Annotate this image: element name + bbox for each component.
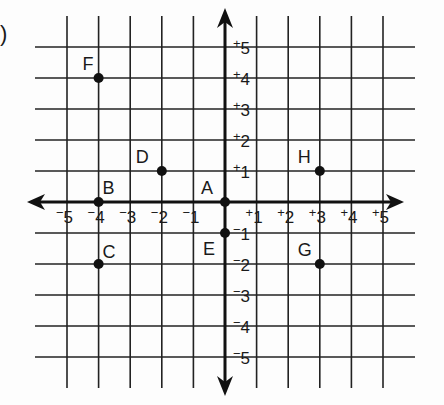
point-label: C: [103, 242, 116, 262]
x-tick-label: +5: [372, 205, 389, 227]
y-tick-label: −4: [233, 315, 250, 337]
x-tick-label: +4: [340, 205, 357, 227]
y-tick-label: −2: [233, 253, 250, 275]
coordinate-plane-figure: ) −5−4−3−2−1+1+2+3+4+5+5+4+3+2+1−1−2−3−4…: [0, 0, 444, 405]
x-tick-label: +2: [277, 205, 294, 227]
question-number-paren: ): [0, 23, 7, 45]
point-label: G: [298, 240, 312, 260]
point-marker: [157, 166, 167, 176]
point-marker: [94, 197, 104, 207]
y-tick-label: +5: [233, 36, 250, 58]
point-label: D: [136, 147, 149, 167]
y-tick-label: +4: [233, 67, 250, 89]
x-tick-label: −5: [56, 205, 73, 227]
point-marker: [315, 166, 325, 176]
point-label: F: [83, 54, 94, 74]
point-marker: [94, 73, 104, 83]
point-label: E: [203, 239, 215, 259]
y-tick-label: +2: [233, 129, 250, 151]
x-tick-label: −1: [182, 205, 199, 227]
y-tick-label: −3: [233, 284, 250, 306]
x-tick-label: +1: [246, 205, 263, 227]
point-label: A: [201, 178, 213, 198]
y-tick-label: −1: [233, 222, 250, 244]
point-label: B: [103, 178, 115, 198]
y-tick-label: −5: [233, 346, 250, 368]
point-label: H: [298, 147, 311, 167]
point-c: C: [94, 242, 116, 269]
x-tick-label: −3: [119, 205, 136, 227]
coordinate-plane: −5−4−3−2−1+1+2+3+4+5+5+4+3+2+1−1−2−3−4−5…: [0, 0, 444, 405]
x-tick-label: −2: [151, 205, 168, 227]
y-tick-label: +1: [233, 160, 250, 182]
point-marker: [315, 259, 325, 269]
y-tick-label: +3: [233, 98, 250, 120]
point-marker: [220, 228, 230, 238]
x-tick-label: −4: [88, 205, 105, 227]
x-tick-label: +3: [309, 205, 326, 227]
point-marker: [220, 197, 230, 207]
